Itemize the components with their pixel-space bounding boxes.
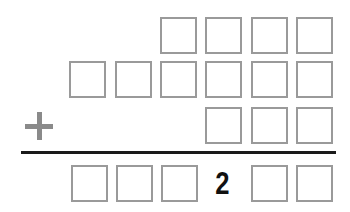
digit-box[interactable] (116, 165, 153, 202)
digit-box[interactable] (296, 17, 333, 54)
digit-box[interactable] (160, 61, 197, 98)
digit-box[interactable] (251, 17, 288, 54)
digit-box[interactable] (160, 17, 197, 54)
digit-box[interactable] (251, 107, 288, 144)
digit-box[interactable] (69, 61, 106, 98)
digit-box[interactable] (205, 61, 242, 98)
digit-box[interactable] (115, 61, 152, 98)
digit-box[interactable] (251, 61, 288, 98)
given-digit: 2 (208, 165, 238, 202)
digit-box[interactable] (71, 165, 108, 202)
plus-icon (25, 112, 55, 142)
digit-box[interactable] (205, 107, 242, 144)
digit-box[interactable] (296, 61, 333, 98)
digit-box[interactable] (296, 107, 333, 144)
sum-divider-line (21, 151, 336, 154)
digit-box[interactable] (251, 165, 288, 202)
digit-box[interactable] (296, 165, 333, 202)
digit-box[interactable] (205, 17, 242, 54)
digit-box[interactable] (161, 165, 198, 202)
